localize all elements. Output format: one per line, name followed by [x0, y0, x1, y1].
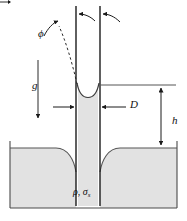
height-indicator	[100, 85, 176, 145]
contact-angle-label: ϕ	[38, 28, 44, 39]
fluid-properties-label: ρ, σs	[73, 187, 90, 199]
figure-canvas	[0, 0, 187, 221]
diameter-label: D	[130, 99, 138, 110]
contact-angle-indicator	[44, 21, 77, 84]
tube-wall-arrow-left	[79, 14, 95, 21]
tube-wall-arrow-right	[103, 14, 120, 22]
contact-angle-dashed-tangent	[59, 26, 77, 84]
gravity-label: g	[32, 80, 38, 91]
capillary-rise-figure: ϕ g D h ρ, σs	[0, 0, 187, 221]
fluid-surface-tension-subscript: s	[88, 191, 91, 199]
contact-angle-arrow	[44, 21, 58, 36]
height-label: h	[172, 115, 178, 126]
